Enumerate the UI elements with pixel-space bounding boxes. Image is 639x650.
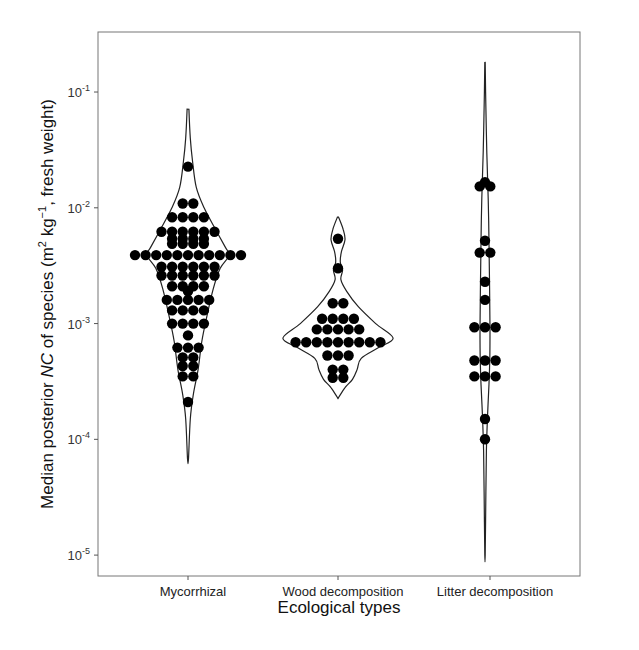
data-point	[178, 361, 188, 371]
data-point	[167, 270, 177, 280]
data-point	[322, 350, 332, 360]
y-tick-exponent: -1	[82, 83, 90, 93]
data-point	[480, 414, 490, 424]
y-title-prefix: Median posterior	[38, 378, 57, 509]
data-point	[480, 434, 490, 444]
data-point	[322, 324, 332, 334]
data-point	[343, 337, 353, 347]
data-point	[469, 355, 479, 365]
x-axis: MycorrhizalWood decompositionLitter deco…	[160, 576, 553, 599]
data-point	[199, 212, 209, 222]
data-point	[199, 318, 209, 328]
y-tick-base: 10	[68, 201, 82, 216]
data-point	[343, 350, 353, 360]
data-point	[178, 239, 188, 249]
y-tick-base: 10	[68, 317, 82, 332]
y-tick-exponent: -5	[82, 546, 90, 556]
data-point	[215, 250, 225, 260]
x-tick-label: Wood decomposition	[282, 584, 403, 599]
data-point	[183, 250, 193, 260]
x-tick-label: Mycorrhizal	[160, 584, 227, 599]
data-point	[183, 342, 193, 352]
data-point	[322, 337, 332, 347]
data-point	[349, 314, 359, 324]
data-point	[365, 337, 375, 347]
violin-dot-chart: 10-110-210-310-410-5 MycorrhizalWood dec…	[0, 0, 639, 650]
data-point	[188, 270, 198, 280]
data-point	[188, 371, 198, 381]
data-point	[199, 305, 209, 315]
data-point	[188, 305, 198, 315]
y-tick-base: 10	[68, 85, 82, 100]
data-point	[172, 250, 182, 260]
y-title-suffix: , fresh weight)	[38, 99, 57, 206]
data-point	[333, 263, 343, 273]
data-point	[183, 295, 193, 305]
data-point	[167, 305, 177, 315]
data-point	[343, 324, 353, 334]
data-point	[333, 234, 343, 244]
data-point	[328, 314, 338, 324]
y-axis: 10-110-210-310-410-5	[68, 83, 98, 563]
data-point	[480, 355, 490, 365]
data-point	[188, 198, 198, 208]
data-point	[375, 337, 385, 347]
data-point	[140, 250, 150, 260]
data-point	[475, 181, 485, 191]
y-title-middle: of species (m	[38, 247, 57, 353]
data-point	[480, 236, 490, 246]
data-point	[183, 397, 193, 407]
y-tick-label: 10-2	[68, 199, 90, 216]
data-point	[475, 247, 485, 257]
data-point	[178, 212, 188, 222]
y-axis-title: Median posterior NC of species (m2 kg−1,…	[36, 99, 57, 509]
data-point	[490, 355, 500, 365]
data-point	[328, 298, 338, 308]
data-point	[225, 250, 235, 260]
data-point	[236, 250, 246, 260]
data-point	[338, 298, 348, 308]
data-point	[312, 324, 322, 334]
data-point	[167, 318, 177, 328]
data-point	[151, 250, 161, 260]
y-tick-label: 10-4	[68, 430, 90, 447]
data-point	[485, 247, 495, 257]
data-point	[301, 337, 311, 347]
data-point	[469, 322, 479, 332]
data-point	[333, 324, 343, 334]
data-point	[480, 295, 490, 305]
data-point	[193, 295, 203, 305]
x-axis-title: Ecological types	[278, 598, 401, 617]
data-point	[156, 227, 166, 237]
data-point	[480, 322, 490, 332]
data-point	[167, 239, 177, 249]
data-point	[199, 270, 209, 280]
data-point	[178, 318, 188, 328]
data-point	[178, 198, 188, 208]
data-point	[204, 295, 214, 305]
data-point	[312, 337, 322, 347]
data-point	[178, 270, 188, 280]
data-point	[193, 250, 203, 260]
data-point	[167, 212, 177, 222]
data-point	[193, 342, 203, 352]
data-point	[204, 250, 214, 260]
y-tick-base: 10	[68, 432, 82, 447]
data-point	[156, 270, 166, 280]
data-point	[209, 227, 219, 237]
data-point	[333, 350, 343, 360]
data-point	[490, 371, 500, 381]
data-point	[188, 318, 198, 328]
violin-litter-decomposition	[480, 62, 490, 562]
y-tick-exponent: -4	[82, 430, 90, 440]
data-point	[188, 361, 198, 371]
data-point	[490, 322, 500, 332]
data-point	[162, 250, 172, 260]
data-point	[469, 371, 479, 381]
data-point	[354, 337, 364, 347]
y-tick-exponent: -2	[82, 199, 90, 209]
data-point	[167, 281, 177, 291]
y-title-italic: NC	[38, 352, 57, 377]
data-point	[354, 324, 364, 334]
dots	[130, 161, 501, 444]
